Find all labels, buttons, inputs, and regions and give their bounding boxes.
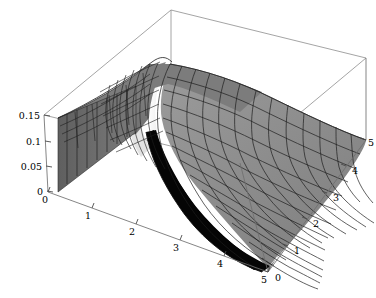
surface-mesh (58, 58, 374, 290)
surface-plot-figure: 0.15 0.1 0.05 0 0 1 2 3 4 5 (0, 0, 376, 298)
x-tick-label-0: 0 (42, 194, 48, 205)
z-tick-label-1: 0.1 (26, 136, 41, 147)
frame-edge-top-back-right (171, 10, 366, 58)
x-tick-label-4: 4 (217, 258, 223, 269)
x-tick-label-2: 2 (129, 226, 135, 237)
y-tick-label-0: 0 (275, 272, 281, 283)
y-tick-label-4: 4 (352, 165, 358, 176)
x-tick-2 (136, 219, 138, 224)
x-tick-label-5: 5 (261, 274, 267, 285)
z-axis-ticks (44, 115, 53, 192)
plot-canvas: 0.15 0.1 0.05 0 0 1 2 3 4 5 (0, 0, 376, 298)
z-tick-label-2: 0.05 (21, 161, 42, 172)
x-tick-1 (92, 203, 94, 208)
x-tick-label-3: 3 (173, 242, 179, 253)
y-tick-label-1: 1 (294, 245, 300, 256)
z-tick-label-0: 0.15 (19, 110, 40, 121)
x-tick-3 (180, 235, 182, 240)
y-tick-label-2: 2 (313, 218, 319, 229)
x-tick-label-1: 1 (85, 210, 91, 221)
y-tick-label-3: 3 (333, 192, 339, 203)
z-tick-01 (45, 141, 51, 142)
frame-edge-z-axis (44, 115, 48, 192)
z-axis-tick-labels: 0.15 0.1 0.05 0 (19, 110, 43, 197)
y-tick-label-5: 5 (368, 137, 374, 148)
z-tick-015 (44, 115, 50, 116)
